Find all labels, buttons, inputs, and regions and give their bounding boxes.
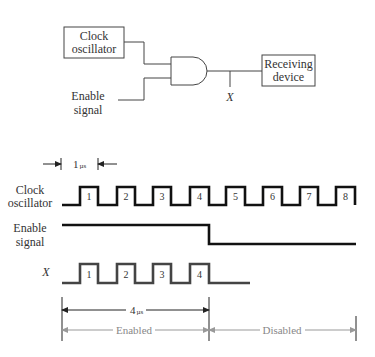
x-pulse-2: 2: [124, 269, 129, 280]
clock-pulse-7: 7: [307, 191, 312, 202]
row-label-x: X: [41, 265, 50, 279]
receiver-label-1: Receiving: [264, 57, 313, 71]
duration-markers: 4µs Enabled Disabled: [62, 297, 356, 341]
clock-box-label-2: oscillator: [72, 42, 117, 56]
clock-pulse-6: 6: [270, 191, 275, 202]
row-label-clock-1: Clock: [16, 183, 45, 197]
svg-text:4µs: 4µs: [130, 304, 144, 316]
clock-pulse-3: 3: [160, 191, 165, 202]
enable-waveform: [62, 225, 356, 244]
clock-pulse-labels: 1 2 3 4 5 6 7 8: [87, 191, 349, 202]
receiver-label-2: device: [273, 70, 304, 84]
enable-input-label-2: signal: [74, 103, 103, 117]
x-pulse-labels: 1 2 3 4: [87, 269, 203, 280]
disabled-phase-label: Disabled: [262, 324, 302, 336]
clock-oscillator-box: Clock oscillator: [64, 27, 124, 58]
x-pulse-3: 3: [160, 269, 165, 280]
clock-box-label-1: Clock: [80, 29, 109, 43]
duration-unit: µs: [137, 308, 144, 316]
timing-diagram: Clock oscillator Enable signal X Receivi…: [0, 0, 375, 357]
enabled-phase-label: Enabled: [116, 324, 153, 336]
period-value: 1: [73, 158, 79, 170]
enable-input-label-1: Enable: [71, 89, 104, 103]
row-label-enable-1: Enable: [13, 221, 46, 235]
clock-pulse-8: 8: [343, 191, 348, 202]
clock-pulse-4: 4: [197, 191, 202, 202]
clock-wire: [124, 42, 171, 64]
and-gate-icon: [171, 57, 207, 85]
duration-value: 4: [130, 304, 136, 316]
enable-wire: [118, 78, 171, 100]
circuit-diagram: Clock oscillator Enable signal X Receivi…: [64, 27, 315, 117]
period-unit: µs: [80, 162, 87, 170]
clock-pulse-2: 2: [124, 191, 129, 202]
x-node-label: X: [225, 90, 234, 104]
clock-pulse-5: 5: [233, 191, 238, 202]
row-label-enable-2: signal: [16, 235, 45, 249]
x-pulse-1: 1: [87, 269, 92, 280]
row-label-clock-2: oscillator: [8, 196, 53, 210]
receiving-device-box: Receiving device: [262, 55, 315, 86]
period-marker: 1µs: [43, 158, 117, 170]
svg-text:1µs: 1µs: [73, 158, 87, 170]
x-pulse-4: 4: [197, 269, 202, 280]
clock-pulse-1: 1: [87, 191, 92, 202]
